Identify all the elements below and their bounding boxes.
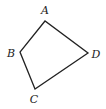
quadrilateral-diagram: A B C D: [0, 0, 106, 109]
vertex-label-c: C: [30, 93, 39, 106]
vertex-label-b: B: [6, 47, 15, 60]
vertex-label-d: D: [91, 48, 101, 61]
quadrilateral-shape: [20, 21, 88, 89]
vertex-label-a: A: [40, 4, 49, 17]
